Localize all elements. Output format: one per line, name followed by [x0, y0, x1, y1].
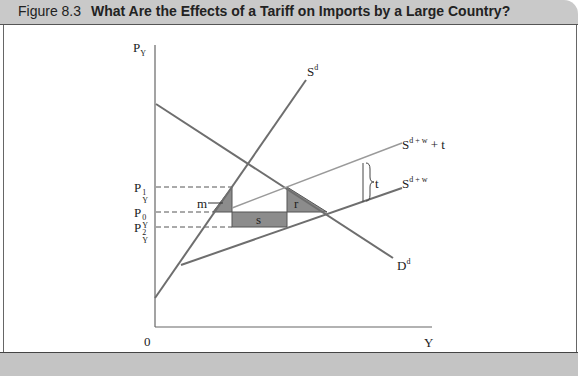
tariff-label: t [375, 177, 379, 190]
tariff-diagram [0, 0, 587, 376]
origin-label: 0 [144, 335, 151, 348]
area-s-label: s [256, 213, 261, 226]
domestic-demand-label: Dd [397, 258, 410, 272]
area-r-shape [287, 187, 327, 212]
world-supply-tariff-label: Sd + w + t [402, 137, 445, 151]
y-axis-label: PY [133, 41, 146, 58]
domestic-supply-label: Sd [307, 64, 318, 78]
price-p2-label: P2Y [134, 221, 148, 245]
tariff-bracket-icon [366, 163, 374, 201]
price-p1-label: P1Y [134, 181, 148, 205]
area-r-label: r [294, 197, 298, 210]
figure-page: Figure 8.3 What Are the Effects of a Tar… [0, 0, 587, 376]
world-supply-label: Sd + w [402, 176, 428, 190]
x-axis-label: Y [424, 336, 433, 349]
area-m-label: m [197, 197, 207, 210]
